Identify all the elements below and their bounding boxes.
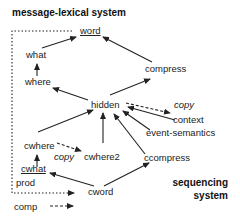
node-event-semantics: event-semantics [146, 128, 215, 138]
title-message-lexical-system: message-lexical system [12, 8, 126, 18]
node-cwhere2: cwhere2 [84, 152, 120, 162]
edge-label-copy-top: copy [174, 100, 194, 110]
node-ccompress: ccompress [144, 153, 190, 163]
node-compress: compress [145, 64, 186, 74]
node-where: where [25, 77, 51, 87]
node-context: context [173, 115, 204, 125]
title-system: system [160, 191, 228, 201]
node-prod: prod [16, 178, 35, 188]
diagram-canvas: message-lexical system word what where c… [0, 0, 240, 219]
title-sequencing: sequencing [160, 178, 228, 188]
node-word: word [80, 26, 101, 36]
node-cwhere: cwhere [24, 141, 55, 151]
node-cwhat: cwhat [21, 164, 46, 174]
node-what: what [26, 50, 46, 60]
node-cword: cword [88, 187, 113, 197]
node-comp: comp [14, 202, 37, 212]
node-hidden: hidden [91, 100, 120, 110]
edge-label-copy-mid: copy [54, 152, 74, 162]
